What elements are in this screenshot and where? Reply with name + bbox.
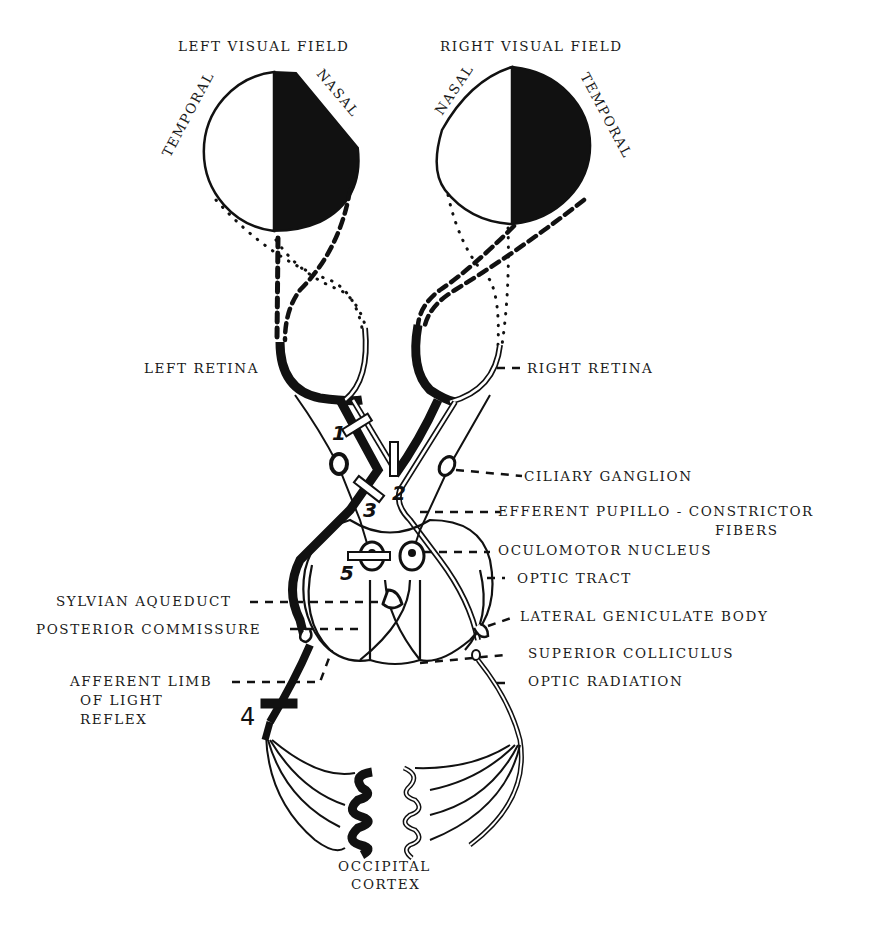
lesion-marker-2: 2 (390, 442, 406, 505)
label-ciliary-ganglion: CILIARY GANGLION (524, 468, 693, 484)
label-afferent-line3: REFLEX (80, 711, 147, 727)
label-afferent-line1: AFFERENT LIMB (69, 673, 212, 689)
svg-text:4: 4 (240, 703, 255, 731)
label-efferent-line1: EFFERENT PUPILLO - CONSTRICTOR (498, 503, 814, 519)
svg-text:5: 5 (340, 561, 354, 585)
svg-text:3: 3 (363, 498, 377, 522)
lateral-geniculate-right (472, 624, 488, 660)
right-visual-field: RIGHT VISUAL FIELD NASAL TEMPORAL (431, 38, 636, 224)
label-occipital-line2: CORTEX (351, 876, 420, 892)
left-occipital-gyri (352, 772, 372, 855)
label-right-retina: RIGHT RETINA (527, 360, 653, 376)
left-retina-structure (280, 328, 395, 640)
lateral-geniculate-left (300, 630, 311, 642)
label-sylvian-aqueduct: SYLVIAN AQUEDUCT (56, 593, 232, 609)
optic-radiations (265, 645, 521, 850)
svg-text:1: 1 (332, 421, 346, 445)
label-occipital-line1: OCCIPITAL (338, 858, 431, 874)
right-visual-field-title: RIGHT VISUAL FIELD (440, 38, 623, 54)
label-optic-tract: OPTIC TRACT (517, 570, 632, 586)
left-visual-field-title: LEFT VISUAL FIELD (178, 38, 349, 54)
label-efferent-line2: FIBERS (715, 522, 779, 538)
label-optic-radiation: OPTIC RADIATION (528, 673, 683, 689)
sylvian-aqueduct-shape (383, 590, 402, 608)
label-left-retina: LEFT RETINA (144, 360, 259, 376)
midbrain (303, 520, 492, 664)
ciliary-ganglion-left (331, 454, 347, 474)
structure-labels: LEFT RETINA RIGHT RETINA CILIARY GANGLIO… (36, 360, 814, 892)
visual-pathway-diagram: LEFT VISUAL FIELD TEMPORAL NASAL RIGHT V… (0, 0, 871, 930)
svg-text:2: 2 (392, 481, 406, 505)
label-lateral-geniculate-body: LATERAL GENICULATE BODY (520, 608, 768, 624)
label-superior-colliculus: SUPERIOR COLLICULUS (528, 645, 734, 661)
oculomotor-nucleus-right (400, 542, 424, 570)
label-afferent-line2: OF LIGHT (80, 692, 163, 708)
left-visual-field: LEFT VISUAL FIELD TEMPORAL NASAL (159, 38, 363, 231)
label-posterior-commissure: POSTERIOR COMMISSURE (36, 621, 261, 637)
label-oculomotor-nucleus: OCULOMOTOR NUCLEUS (498, 542, 712, 558)
